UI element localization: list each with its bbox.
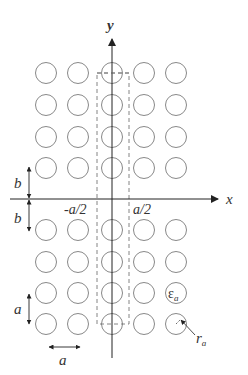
dielectric-rod	[68, 314, 89, 335]
dielectric-rod	[166, 252, 187, 273]
y-axis-label: y	[105, 17, 114, 33]
dielectric-rod	[166, 63, 187, 84]
radius-label: ra	[196, 330, 207, 348]
dielectric-rod	[36, 220, 57, 241]
dielectric-rod	[134, 314, 155, 335]
dielectric-rod	[134, 63, 155, 84]
dielectric-rod	[68, 283, 89, 304]
dielectric-rod	[36, 95, 57, 116]
b-lower-label: b	[14, 210, 22, 226]
dielectric-rod	[134, 252, 155, 273]
dielectric-rod	[36, 252, 57, 273]
dielectric-rod	[166, 127, 187, 148]
dielectric-rod	[68, 63, 89, 84]
b-upper-label: b	[14, 175, 22, 191]
dielectric-rod	[36, 283, 57, 304]
radius-line	[176, 319, 181, 324]
dielectric-rod	[134, 127, 155, 148]
unit-cell-left-label: -a/2	[64, 202, 87, 217]
dielectric-rod	[68, 127, 89, 148]
dielectric-rod	[36, 158, 57, 179]
dielectric-rod	[134, 158, 155, 179]
dielectric-rod	[68, 220, 89, 241]
dielectric-rod	[134, 283, 155, 304]
dielectric-rod	[68, 158, 89, 179]
a-vertical-label: a	[14, 301, 22, 317]
dielectric-rod	[166, 95, 187, 116]
radius-pointer-arrow	[181, 320, 195, 335]
a-horizontal-label: a	[59, 352, 67, 368]
dielectric-rod	[68, 95, 89, 116]
lattice-diagram: x y -a/2 a/2 b b a a εa ra	[0, 0, 248, 375]
x-axis-label: x	[225, 191, 233, 207]
dielectric-rod	[134, 220, 155, 241]
dielectric-rod	[134, 95, 155, 116]
dielectric-rod	[166, 158, 187, 179]
dielectric-rod	[36, 127, 57, 148]
unit-cell-right-label: a/2	[133, 202, 151, 217]
permittivity-label: εa	[168, 286, 179, 303]
dielectric-rod	[68, 252, 89, 273]
dielectric-rod	[166, 220, 187, 241]
dielectric-rod	[36, 314, 57, 335]
dielectric-rod	[36, 63, 57, 84]
